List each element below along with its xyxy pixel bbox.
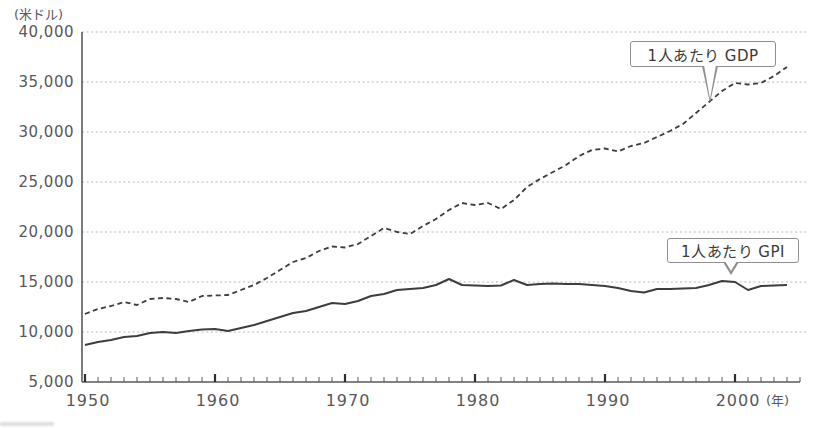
y-tick-label: 10,000 [19, 323, 75, 341]
y-tick-label: 40,000 [19, 23, 75, 41]
y-tick-label: 5,000 [29, 373, 74, 391]
y-tick-label: 30,000 [19, 123, 75, 141]
x-tick-label: 1990 [586, 391, 631, 410]
scan-artifact [0, 422, 54, 426]
x-tick-label: 1950 [66, 391, 111, 410]
y-axis-unit-label: (米ドル) [14, 7, 63, 22]
gpi-line [85, 279, 787, 345]
x-tick-label: 1980 [456, 391, 501, 410]
gpi-line-callout: 1人あたり GPI [667, 238, 799, 263]
x-tick-label: 2000 [716, 391, 761, 410]
y-tick-label: 35,000 [19, 73, 75, 91]
x-axis-unit-label: (年) [766, 393, 789, 408]
gdp-line [85, 67, 787, 314]
gdp-gpi-chart-figure: 5,00010,00015,00020,00025,00030,00035,00… [0, 0, 815, 428]
x-tick-label: 1970 [326, 391, 371, 410]
x-tick-label: 1960 [196, 391, 241, 410]
gdp-line-callout: 1人あたり GDP [630, 41, 776, 67]
y-tick-label: 15,000 [19, 273, 75, 291]
y-tick-label: 25,000 [19, 173, 75, 191]
y-tick-label: 20,000 [19, 223, 75, 241]
